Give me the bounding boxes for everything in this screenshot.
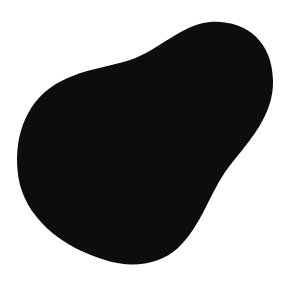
blob-shape-svg — [0, 0, 295, 282]
figure-canvas — [0, 0, 295, 282]
black-blob-shape — [17, 22, 273, 265]
